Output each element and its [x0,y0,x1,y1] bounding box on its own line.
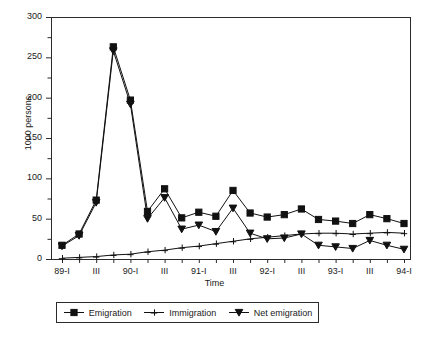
data-point-marker-triangle [400,246,408,253]
data-point-marker-square [230,187,236,193]
data-point-marker-square [264,214,270,220]
data-point-marker-square [350,220,356,226]
data-point-marker-square [333,218,339,224]
data-point-marker-square [315,216,321,222]
filled-square-marker [63,307,85,318]
data-point-marker-square [298,206,304,212]
data-point-marker-square [144,208,150,214]
data-point-marker-square [71,309,77,315]
data-point-marker-square [162,186,168,192]
legend-label: Emigration [89,308,132,318]
legend-entry: Immigration [143,307,216,318]
data-point-marker-triangle [349,245,357,252]
data-point-marker-triangle [246,230,254,237]
legend-entry: Emigration [63,307,132,318]
chart-figure: 1000 persons 050100150200250300 89-IIII9… [0,0,429,337]
data-point-marker-triangle [144,216,152,223]
plot-area [0,0,429,337]
data-point-marker-triangle [110,48,118,55]
chart-legend: EmigrationImmigrationNet emigration [56,302,319,323]
data-point-marker-square [281,212,287,218]
data-point-marker-square [179,215,185,221]
legend-entry: Net emigration [228,307,313,318]
plot-frame [52,18,411,260]
data-point-marker-triangle [229,205,237,212]
plus-marker [143,307,165,318]
filled-triangle-down-marker [228,307,250,318]
series-line [62,47,404,245]
data-point-marker-square [213,213,219,219]
data-point-marker-square [401,220,407,226]
data-point-marker-square [196,209,202,215]
legend-label: Immigration [169,308,216,318]
data-point-marker-square [367,212,373,218]
data-point-marker-triangle [178,226,186,233]
legend-label: Net emigration [254,308,313,318]
data-point-marker-square [384,216,390,222]
data-point-marker-triangle [127,101,135,108]
series-line [62,51,404,249]
data-point-marker-square [247,210,253,216]
data-point-marker-triangle [212,228,220,235]
